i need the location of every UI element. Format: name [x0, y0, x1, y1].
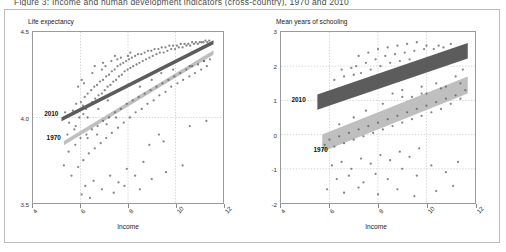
scatter-point — [99, 80, 101, 82]
scatter-point — [411, 96, 413, 98]
scatter-point — [117, 181, 119, 183]
scatter-point — [131, 57, 133, 59]
scatter-point — [340, 161, 342, 163]
scatter-point — [120, 57, 122, 59]
scatter-point — [382, 128, 384, 130]
scatter-point — [160, 72, 162, 74]
scatter-point — [132, 65, 134, 67]
scatter-point — [389, 62, 391, 64]
y-tick-label: 0 — [274, 131, 277, 138]
scatter-point — [408, 156, 410, 158]
scatter-point — [406, 111, 408, 113]
scatter-point — [391, 92, 393, 94]
scatter-point — [84, 185, 86, 187]
scatter-point — [155, 86, 157, 88]
panel-life-expectancy: Life expectancy 3.54.04.5 4681012 Income… — [4, 9, 252, 243]
scatter-point — [114, 68, 116, 70]
scatter-point — [157, 48, 159, 50]
scatter-point — [94, 65, 96, 67]
scatter-point — [430, 164, 432, 166]
scatter-point — [68, 121, 70, 123]
scatter-point — [362, 181, 364, 183]
scatter-point — [423, 48, 425, 50]
scatter-point — [89, 197, 91, 199]
scatter-point — [357, 186, 359, 188]
scatter-point — [365, 62, 367, 64]
scatter-point — [328, 101, 330, 103]
x-tick-label: 6 — [328, 207, 336, 214]
scatter-point — [433, 48, 435, 50]
scatter-point — [151, 178, 153, 180]
scatter-point — [138, 62, 140, 64]
scatter-point — [86, 137, 88, 139]
scatter-point — [203, 60, 205, 62]
scatter-point — [143, 92, 145, 94]
scatter-point — [129, 51, 131, 53]
scatter-point — [408, 58, 410, 60]
scatter-point — [121, 74, 123, 76]
scatter-point — [101, 188, 103, 190]
scatter-point — [360, 72, 362, 74]
scatter-point — [194, 72, 196, 74]
scatter-point — [168, 45, 170, 47]
scatter-point — [73, 128, 75, 130]
scatter-point — [416, 175, 418, 177]
figure-caption-clipped: Figure 3: Income and human development i… — [14, 0, 494, 6]
scatter-point — [150, 50, 152, 52]
scatter-point — [165, 171, 167, 173]
scatter-point — [442, 46, 444, 48]
scatter-point — [111, 70, 113, 72]
plot-area-left — [32, 31, 224, 204]
scatter-point — [97, 108, 99, 110]
scatter-point — [158, 94, 160, 96]
scatter-point — [445, 62, 447, 64]
scatter-point — [348, 94, 350, 96]
scatter-point — [440, 108, 442, 110]
scatter-point — [167, 79, 169, 81]
scatter-point — [374, 173, 376, 175]
x-tick-label: 8 — [377, 207, 385, 214]
y-tick-label: 2 — [274, 62, 277, 69]
scatter-point — [105, 137, 107, 139]
scatter-point — [96, 84, 98, 86]
scatter-point — [377, 84, 379, 86]
scatter-point — [353, 74, 355, 76]
scatter-point — [425, 45, 427, 47]
scatter-point — [450, 103, 452, 105]
scatter-point — [172, 45, 174, 47]
scatter-point — [139, 86, 141, 88]
scatter-point — [370, 68, 372, 70]
x-tick-label: 12 — [475, 205, 485, 215]
series-annotation-1970-left: 1970 — [47, 134, 61, 141]
scatter-point — [91, 72, 93, 74]
scatter-point — [110, 60, 112, 62]
scatter-point — [170, 86, 172, 88]
scatter-layer-left — [33, 32, 223, 203]
scatter-point — [193, 43, 195, 45]
scatter-point — [162, 140, 164, 142]
scatter-point — [176, 82, 178, 84]
scatter-point — [343, 192, 345, 194]
scatter-point — [343, 89, 345, 91]
scatter-point — [353, 116, 355, 118]
scatter-point — [197, 43, 199, 45]
scatter-point — [391, 125, 393, 127]
scatter-point — [83, 82, 85, 84]
series-annotation-1970-right: 1970 — [314, 146, 328, 153]
scatter-layer-right — [281, 32, 475, 203]
scatter-point — [149, 89, 151, 91]
scatter-point — [445, 86, 447, 88]
scatter-point — [454, 75, 456, 77]
scatter-point — [141, 108, 143, 110]
scatter-point — [350, 67, 352, 69]
y-tick-label: 3 — [274, 28, 277, 35]
scatter-point — [435, 101, 437, 103]
scatter-point — [430, 111, 432, 113]
scatter-point — [459, 82, 461, 84]
scatter-point — [134, 175, 136, 177]
y-tick-label: 3.5 — [20, 201, 29, 208]
scatter-point — [421, 86, 423, 88]
scatter-point — [357, 91, 359, 93]
y-axis-ticks-left: 3.54.04.5 — [4, 31, 29, 204]
scatter-point — [92, 180, 94, 182]
